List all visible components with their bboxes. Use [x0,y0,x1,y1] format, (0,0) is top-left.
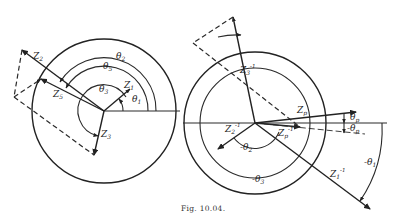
theta2-label: θ2 [116,51,125,62]
left-dashed-edge-3 [14,79,41,97]
right-dashed-edge-2 [193,43,300,127]
z1-inverse-label: Z1-1 [329,167,345,180]
zp-inverse-label: Zp-1 [277,126,293,140]
z5-vector [41,79,104,111]
zp-label: Zp [296,105,307,117]
z3-label: Z3 [100,129,111,140]
impedance-vector-diagram: Z1 Z2 Z5 Z3 θ1 θ2 θ5 θ3 Z3-1 Z [0,0,397,224]
z3-inverse-label: Z3-1 [239,63,255,76]
theta1-label: θ1 [132,94,141,105]
neg-theta3-label: -θ3 [252,174,264,185]
figure-caption: Fig. 10.04. [181,204,225,213]
z1-label: Z1 [123,80,134,91]
z5-label: Z5 [52,89,63,100]
neg-theta1-label: -θ1 [364,157,376,168]
z2-label: Z2 [32,51,43,62]
neg-thetap-label: -θp [347,123,359,135]
z2-inverse-label: Z2-1 [224,122,240,135]
z1-inverse-vector [255,123,370,209]
neg-theta2-label: -θ2 [240,142,252,153]
left-vector-diagram: Z1 Z2 Z5 Z3 θ1 θ2 θ5 θ3 [14,39,180,183]
right-vector-diagram: Z3-1 Z2-1 Z1-1 Zp Zp-1 θp -θp -θ1 -θ2 -θ… [183,17,387,209]
theta1-arc [119,99,123,111]
right-dashed-edge-1 [193,17,233,43]
left-dashed-edge-2 [14,97,94,155]
theta3-label: θ3 [99,84,108,95]
left-dashed-edge-1 [14,50,22,97]
theta5-label: θ5 [103,61,112,72]
